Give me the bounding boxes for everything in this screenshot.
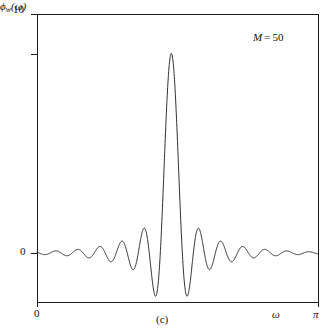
data-series-curve — [37, 53, 318, 296]
chart-plot-area — [0, 0, 330, 333]
figure-panel: 10 0 0 π ω ϕw(ω) M=50 (c) — [0, 0, 330, 333]
